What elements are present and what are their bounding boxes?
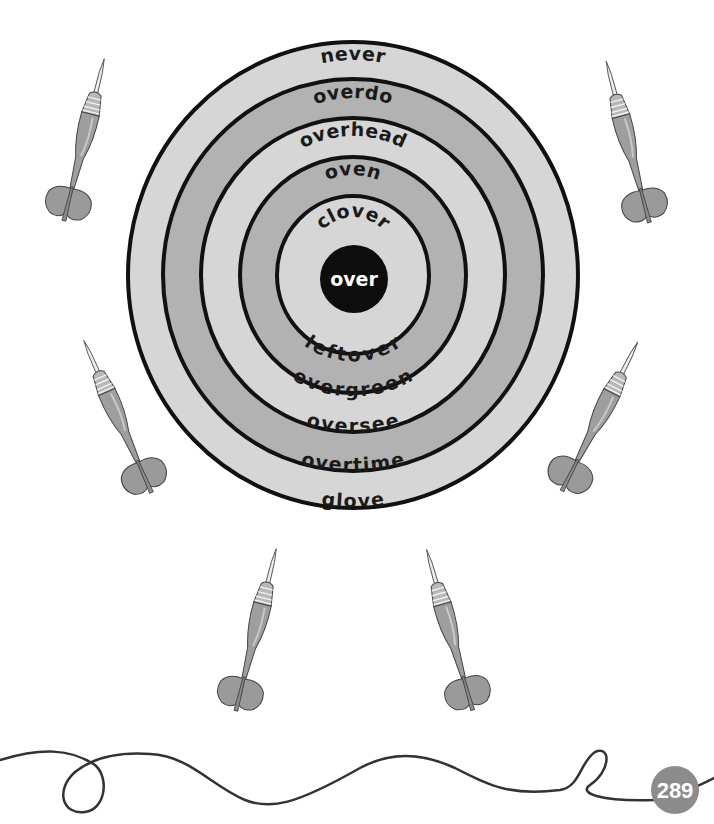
center-word: over xyxy=(330,268,378,290)
dart-bottom-right-icon xyxy=(404,543,495,716)
page-number: 289 xyxy=(657,778,694,803)
dartboard: over never overdo overhead oven clover g… xyxy=(128,42,578,512)
dart-top-right-icon xyxy=(584,55,672,228)
worksheet-page: over never overdo overhead oven clover g… xyxy=(0,0,714,824)
word-glove: glove xyxy=(321,487,386,511)
decorative-string-line xyxy=(0,751,714,812)
dart-top-left-icon xyxy=(41,53,126,226)
dart-bottom-left-icon xyxy=(213,543,298,716)
page-number-badge: 289 xyxy=(651,766,699,814)
